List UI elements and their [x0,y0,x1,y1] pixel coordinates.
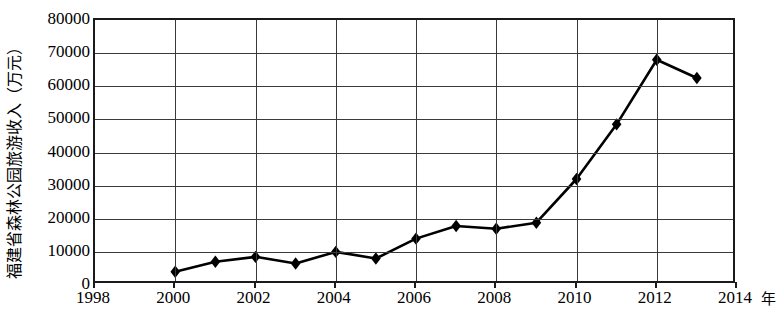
y-axis-tick-label: 70000 [18,43,90,60]
y-axis-tick-label: 60000 [18,76,90,93]
y-axis-tick-labels: 0100002000030000400005000060000700008000… [14,0,90,317]
x-axis-tick-mark [575,282,577,288]
x-axis-tick-mark [254,282,256,288]
plot-area [93,18,735,283]
data-point-marker [211,256,221,268]
y-axis-tick-label: 40000 [18,142,90,159]
x-axis-tick-mark [173,282,175,288]
data-point-marker [291,257,301,269]
gridline-horizontal [95,53,733,54]
gridline-vertical [657,20,658,281]
series-line [175,60,697,272]
x-axis-tick-mark [494,282,496,288]
gridline-horizontal [95,219,733,220]
gridline-vertical [336,20,337,281]
x-axis-tick-label: 2012 [638,288,672,308]
data-point-marker [451,220,461,232]
y-axis-tick-label: 50000 [18,109,90,126]
y-axis-tick-label: 10000 [18,241,90,258]
x-axis-tick-label: 2010 [558,288,592,308]
x-axis-tick-mark [735,282,737,288]
gridline-vertical [577,20,578,281]
x-axis-tick-label: 2008 [477,288,511,308]
data-point-marker [692,72,702,84]
x-axis-tick-label: 2004 [317,288,351,308]
gridline-vertical [416,20,417,281]
y-axis-tick-label: 80000 [18,10,90,27]
x-axis-tick-label: 2000 [156,288,190,308]
gridline-vertical [256,20,257,281]
x-axis-tick-mark [655,282,657,288]
gridline-horizontal [95,119,733,120]
x-axis-tick-label: 2002 [237,288,271,308]
x-axis-unit-label: 年 [761,289,776,309]
y-axis-tick-label: 20000 [18,208,90,225]
x-axis-tick-label: 2014 [718,288,752,308]
x-axis-tick-labels: 年 199820002002200420062008201020122014 [0,288,784,317]
data-point-marker [371,252,381,264]
gridline-horizontal [95,86,733,87]
x-axis-tick-mark [414,282,416,288]
gridline-horizontal [95,186,733,187]
gridline-horizontal [95,252,733,253]
x-axis-tick-mark [93,282,95,288]
gridline-vertical [175,20,176,281]
gridline-horizontal [95,153,733,154]
gridline-vertical [496,20,497,281]
x-axis-tick-mark [334,282,336,288]
line-chart: 福建省森林公园旅游收入（万元） 010000200003000040000500… [0,0,784,317]
x-axis-tick-label: 1998 [76,288,110,308]
x-axis-tick-label: 2006 [397,288,431,308]
y-axis-tick-label: 30000 [18,175,90,192]
